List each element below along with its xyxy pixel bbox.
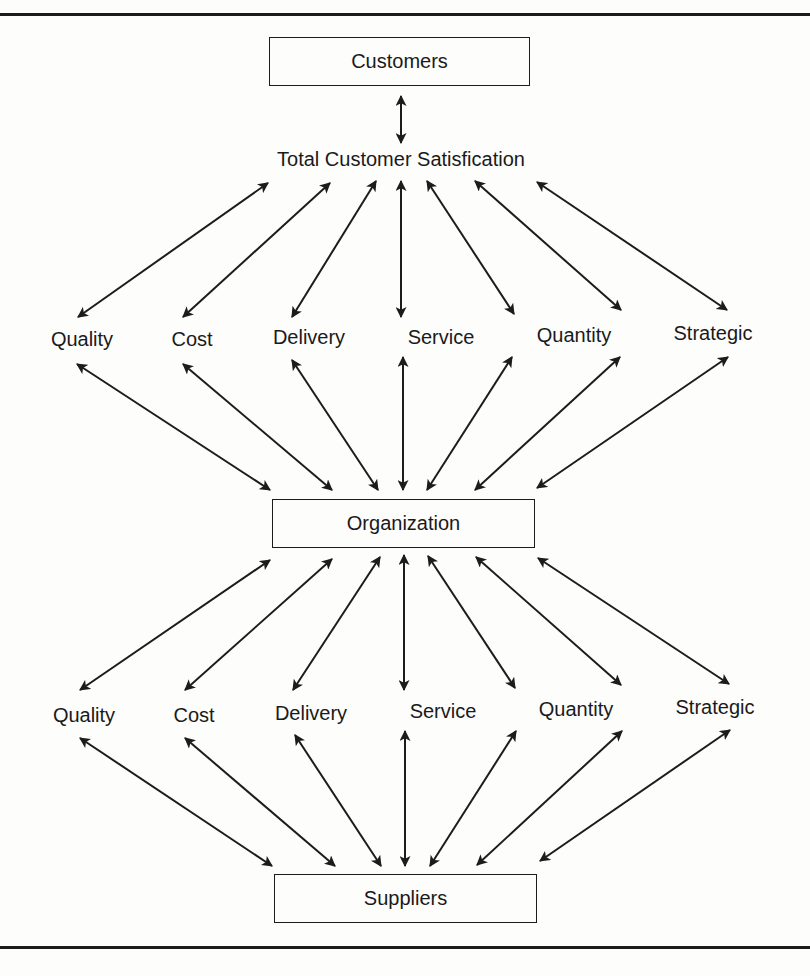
arrow-cost-organization	[183, 364, 332, 490]
arrow-service-right-suppliers	[430, 731, 516, 866]
upper-factor-service: Service	[408, 325, 475, 349]
upper-factor-delivery: Delivery	[273, 325, 345, 349]
arrow-quality-suppliers	[80, 738, 272, 866]
arrow-service-right-organization	[427, 357, 512, 490]
arrow-organization-cost	[185, 559, 332, 690]
arrow-strategic-suppliers	[540, 730, 730, 861]
arrow-organization-delivery	[293, 557, 380, 690]
organization-label: Organization	[347, 512, 460, 535]
arrow-strategic-organization	[537, 357, 728, 488]
customers-label: Customers	[351, 50, 448, 73]
total-customer-satisfaction-label: Total Customer Satisfication	[277, 147, 525, 171]
arrow-quality-organization	[77, 364, 270, 490]
arrow-organization-strategic	[538, 558, 729, 684]
arrow-satisfaction-strategic	[537, 182, 727, 310]
lower-factor-quantity: Quantity	[539, 697, 613, 721]
arrow-organization-quality	[80, 560, 270, 690]
lower-factor-service: Service	[410, 699, 477, 723]
upper-factor-quantity: Quantity	[537, 323, 611, 347]
arrow-satisfaction-cost	[183, 183, 330, 317]
customers-box: Customers	[269, 37, 530, 86]
arrow-satisfaction-quality	[78, 183, 268, 317]
lower-factor-quality: Quality	[53, 703, 115, 727]
upper-factor-quality: Quality	[51, 327, 113, 351]
lower-factor-delivery: Delivery	[275, 701, 347, 725]
arrow-delivery-organization	[292, 360, 378, 490]
arrow-satisfaction-service-right	[427, 181, 514, 314]
lower-factor-cost: Cost	[173, 703, 214, 727]
arrow-satisfaction-delivery	[292, 181, 376, 317]
lower-factor-strategic: Strategic	[676, 695, 755, 719]
arrow-organization-quantity	[476, 557, 621, 685]
upper-factor-strategic: Strategic	[674, 321, 753, 345]
suppliers-label: Suppliers	[364, 887, 447, 910]
arrow-organization-service-right	[428, 556, 515, 688]
suppliers-box: Suppliers	[274, 874, 537, 923]
arrow-delivery-suppliers	[295, 735, 381, 866]
upper-factor-cost: Cost	[171, 327, 212, 351]
arrow-satisfaction-quantity	[475, 181, 621, 310]
arrow-quantity-organization	[475, 357, 620, 490]
arrow-cost-suppliers	[185, 738, 335, 866]
arrow-quantity-suppliers	[477, 731, 622, 865]
organization-box: Organization	[272, 499, 535, 548]
